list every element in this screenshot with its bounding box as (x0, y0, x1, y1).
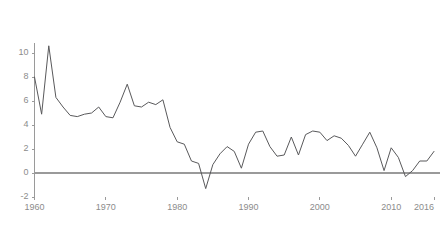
line-chart: -20246810 1960197019801990200020102016 (0, 0, 444, 234)
chart-plot-area (0, 0, 444, 234)
x-tick-label: 1960 (15, 203, 55, 212)
y-tick-label: -2 (2, 192, 29, 201)
y-tick-label: 0 (2, 168, 29, 177)
x-tick-label: 1970 (86, 203, 126, 212)
y-tick-label: 10 (2, 48, 29, 57)
y-tick-label: 8 (2, 72, 29, 81)
data-series-layer (35, 46, 435, 189)
y-tick-label: 2 (2, 144, 29, 153)
x-tick-label: 1990 (229, 203, 269, 212)
x-tick-label: 1980 (157, 203, 197, 212)
y-tick-label: 6 (2, 96, 29, 105)
x-tick-label: 2016 (404, 203, 444, 212)
series-line-0 (35, 46, 435, 189)
axis-layer (32, 43, 435, 200)
x-tick-label: 2000 (300, 203, 340, 212)
y-tick-label: 4 (2, 120, 29, 129)
